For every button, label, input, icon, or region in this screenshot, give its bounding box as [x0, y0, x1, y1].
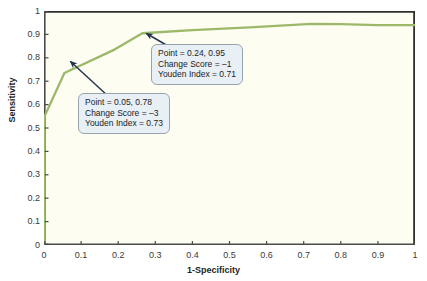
- x-axis-tick-labels: 00.10.20.30.40.50.60.70.80.91: [0, 250, 427, 264]
- y-tick-label: 0.9: [16, 30, 40, 39]
- x-tick-label: 0.9: [365, 250, 391, 260]
- x-tick-label: 0.8: [328, 250, 354, 260]
- annotation-high-youden-index: Youden Index = 0.71: [158, 69, 236, 80]
- y-tick-label: 1: [16, 7, 40, 16]
- x-tick-label: 0.5: [217, 250, 243, 260]
- y-axis-tick-labels: 00.10.20.30.40.50.60.70.80.91: [10, 0, 40, 281]
- x-tick-label: 0.4: [179, 250, 205, 260]
- y-tick-label: 0.3: [16, 170, 40, 179]
- y-tick-label: 0: [16, 241, 40, 250]
- x-tick-label: 0.3: [142, 250, 168, 260]
- x-tick-label: 0.7: [291, 250, 317, 260]
- y-tick-label: 0.5: [16, 124, 40, 133]
- annotation-high-point: Point = 0.24, 0.95: [158, 48, 236, 59]
- roc-chart-figure: Sensitivity 00.10.20.30.40.50.60.70.80.9…: [0, 0, 427, 281]
- y-tick-label: 0.6: [16, 100, 40, 109]
- annotation-high-change-score: Change Score = –1: [158, 59, 236, 70]
- x-tick-label: 0.1: [68, 250, 94, 260]
- y-tick-label: 0.1: [16, 217, 40, 226]
- annotation-low-youden-index: Youden Index = 0.73: [85, 118, 163, 129]
- y-tick-label: 0.8: [16, 53, 40, 62]
- annotation-low-point: Point = 0.05, 0.78: [85, 97, 163, 108]
- y-tick-label: 0.7: [16, 77, 40, 86]
- annotation-low-change-score: Change Score = –3: [85, 108, 163, 119]
- x-axis-title: 1-Specificity: [0, 265, 427, 275]
- x-tick-label: 0.6: [254, 250, 280, 260]
- annotation-callout-high: Point = 0.24, 0.95 Change Score = –1 You…: [151, 44, 243, 85]
- annotation-callout-low: Point = 0.05, 0.78 Change Score = –3 You…: [78, 93, 170, 134]
- y-tick-label: 0.4: [16, 147, 40, 156]
- x-tick-label: 0: [31, 250, 57, 260]
- x-tick-label: 1: [402, 250, 427, 260]
- x-tick-label: 0.2: [105, 250, 131, 260]
- y-tick-label: 0.2: [16, 194, 40, 203]
